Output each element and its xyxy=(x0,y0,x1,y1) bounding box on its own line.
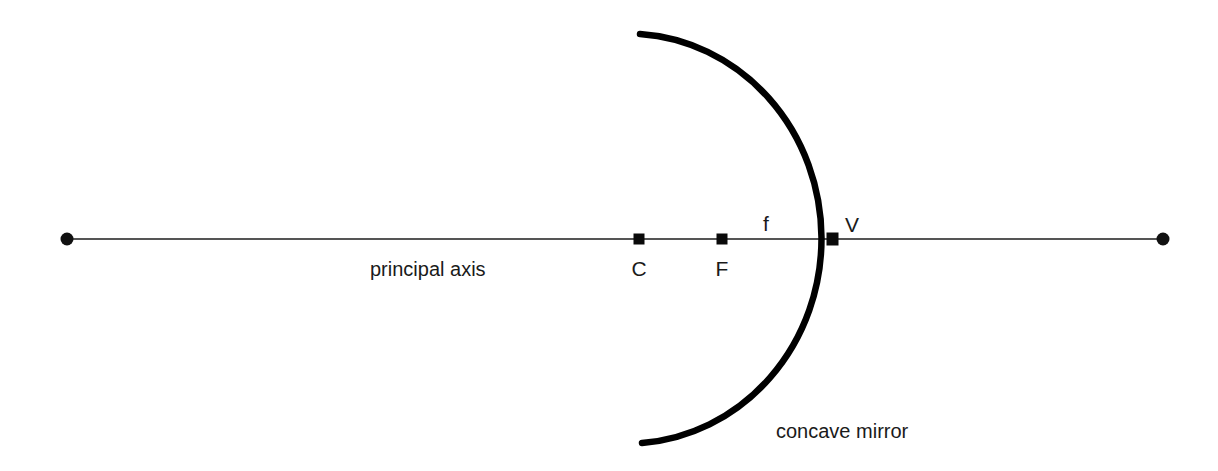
axis-left-endpoint-dot xyxy=(61,233,74,246)
center-of-curvature-marker xyxy=(634,234,645,245)
axis-right-endpoint-dot xyxy=(1157,233,1170,246)
vertex-marker xyxy=(827,233,839,246)
label-focal-length: f xyxy=(763,212,769,235)
label-concave-mirror: concave mirror xyxy=(776,420,909,442)
focal-point-marker xyxy=(717,234,728,245)
optics-diagram-canvas: C F V f principal axis concave mirror xyxy=(0,0,1218,471)
label-principal-axis: principal axis xyxy=(370,258,486,280)
concave-mirror-diagram: C F V f principal axis concave mirror xyxy=(0,0,1218,471)
label-focal-point: F xyxy=(716,257,729,280)
label-center-of-curvature: C xyxy=(631,257,646,280)
label-vertex: V xyxy=(845,213,859,236)
